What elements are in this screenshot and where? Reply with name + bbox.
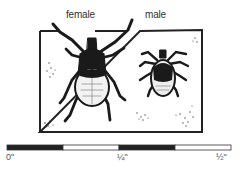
scale-segment-3: [175, 145, 231, 150]
scale-label-quarter-inch: ¼": [117, 152, 128, 162]
specimen-frame: [40, 30, 202, 132]
scale-label-half-inch: ½": [216, 152, 227, 162]
scale-label-zero: 0": [6, 152, 14, 162]
scale-segment-0: [7, 145, 63, 150]
male-tick-icon: [140, 50, 188, 96]
tick-illustration: [0, 0, 243, 174]
scale-segment-2: [119, 145, 175, 150]
scale-segment-1: [63, 145, 119, 150]
scale-bar: [7, 145, 231, 150]
